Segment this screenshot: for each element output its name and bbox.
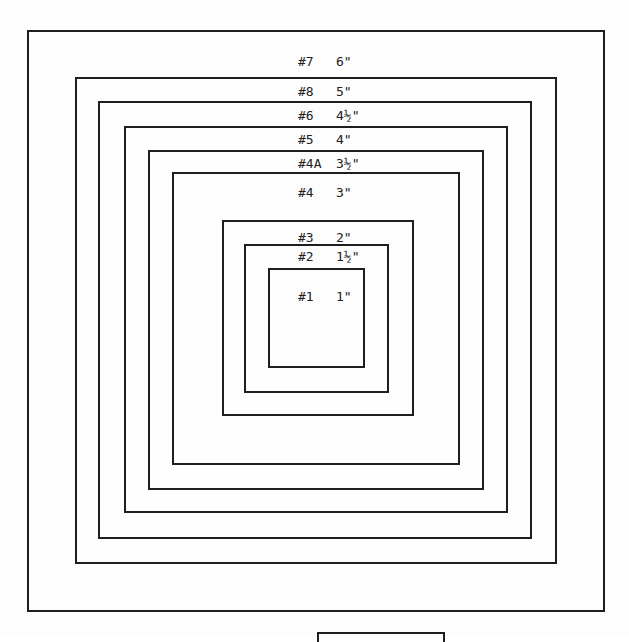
label-size: 5" (336, 84, 352, 99)
box-1in (268, 268, 365, 368)
label-number: #5 (298, 133, 336, 147)
size-label: #85" (298, 85, 352, 99)
size-label: #43" (298, 186, 352, 200)
label-number: #4 (298, 186, 336, 200)
label-number: #2 (298, 250, 336, 264)
label-number: #6 (298, 109, 336, 123)
label-size: 4½" (336, 108, 359, 123)
size-label: #54" (298, 133, 352, 147)
size-label: #32" (298, 231, 352, 245)
label-size: 1" (336, 289, 352, 304)
label-size: 3½" (336, 156, 359, 171)
label-number: #7 (298, 55, 336, 69)
size-label: #11" (298, 290, 352, 304)
label-size: 4" (336, 132, 352, 147)
size-label: #21½" (298, 250, 359, 264)
label-size: 3" (336, 185, 352, 200)
size-label: #64½" (298, 109, 359, 123)
size-label: #4A3½" (298, 157, 359, 171)
size-label: #76" (298, 55, 352, 69)
label-number: #8 (298, 85, 336, 99)
label-number: #4A (298, 157, 336, 171)
label-number: #1 (298, 290, 336, 304)
label-size: 6" (336, 54, 352, 69)
label-size: 1½" (336, 249, 359, 264)
footer-box (317, 632, 445, 642)
label-number: #3 (298, 231, 336, 245)
label-size: 2" (336, 230, 352, 245)
